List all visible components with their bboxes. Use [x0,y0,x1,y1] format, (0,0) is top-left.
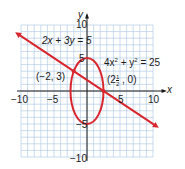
y-tick-minus-10: −10 [70,154,87,164]
line-equation-label: 2x + 3y = 5 [42,36,91,46]
intersection-point [72,69,76,73]
x-axis-label: x [167,85,172,95]
y-tick-minus-5: −5 [76,120,87,130]
x-tick-10: 10 [148,95,159,105]
y-tick-5: 5 [79,54,85,64]
axes [17,13,167,161]
x-tick-5: 5 [118,95,124,105]
y-axis-arrow-icon [85,13,89,18]
point-label-intersection-a: (−2, 3) [36,72,65,82]
x-tick-minus-10: −10 [11,95,28,105]
intersection-point [102,89,106,93]
x-tick-minus-5: −5 [47,95,58,105]
point-label-intersection-b: (212 , 0) [107,74,136,87]
coordinate-plane [0,0,185,169]
ellipse-equation-label: 4x2 + y2 = 25 [104,57,160,68]
y-tick-10: 10 [76,20,87,30]
